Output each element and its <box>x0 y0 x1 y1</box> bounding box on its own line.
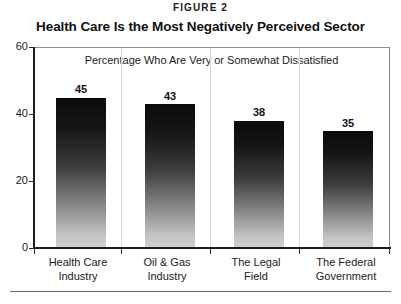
y-tick-label-20: 20 <box>0 174 28 186</box>
bottom-divider <box>10 291 391 292</box>
x-tick-mark-4 <box>389 249 390 254</box>
y-tick-mark-20 <box>29 181 34 182</box>
category-divider-2 <box>210 48 211 247</box>
x-axis-label-line-1: The Legal <box>212 255 300 269</box>
x-tick-mark-0 <box>34 249 35 254</box>
x-tick-mark-3 <box>299 249 300 254</box>
x-axis-label-health-care-industry: Health Care Industry <box>34 255 122 283</box>
x-axis-label-line-2: Industry <box>34 269 122 283</box>
category-divider-1 <box>121 48 122 247</box>
y-tick-label-40: 40 <box>0 107 28 119</box>
x-axis-label-the-legal-field: The Legal Field <box>212 255 300 283</box>
bar-value-oil-and-gas-industry: 43 <box>145 90 195 102</box>
x-axis-label-line-2: Field <box>212 269 300 283</box>
bar-the-federal-government <box>323 131 373 247</box>
x-axis-label-line-1: The Federal <box>301 255 391 269</box>
y-tick-mark-60 <box>29 47 34 48</box>
x-axis-line <box>33 247 391 249</box>
x-axis-label-line-1: Health Care <box>34 255 122 269</box>
figure-number-label: FIGURE 2 <box>0 2 401 13</box>
x-tick-mark-2 <box>210 249 211 254</box>
bar-the-legal-field <box>234 121 284 247</box>
x-axis-label-line-2: Industry <box>123 269 211 283</box>
x-tick-mark-1 <box>121 249 122 254</box>
bar-value-health-care-industry: 45 <box>56 83 106 95</box>
x-axis-label-the-federal-government: The Federal Government <box>301 255 391 283</box>
x-axis-label-line-1: Oil & Gas <box>123 255 211 269</box>
y-tick-label-60: 60 <box>0 40 28 52</box>
y-tick-mark-40 <box>29 114 34 115</box>
figure-container: FIGURE 2 Health Care Is the Most Negativ… <box>0 0 401 304</box>
plot-area <box>35 48 390 247</box>
bar-value-the-federal-government: 35 <box>323 117 373 129</box>
y-tick-label-0: 0 <box>0 241 28 253</box>
figure-title: Health Care Is the Most Negatively Perce… <box>0 19 401 34</box>
category-divider-3 <box>299 48 300 247</box>
bar-health-care-industry <box>56 98 106 247</box>
bar-value-the-legal-field: 38 <box>234 106 284 118</box>
x-axis-label-line-2: Government <box>301 269 391 283</box>
bar-oil-and-gas-industry <box>145 104 195 247</box>
x-axis-label-oil-and-gas-industry: Oil & Gas Industry <box>123 255 211 283</box>
